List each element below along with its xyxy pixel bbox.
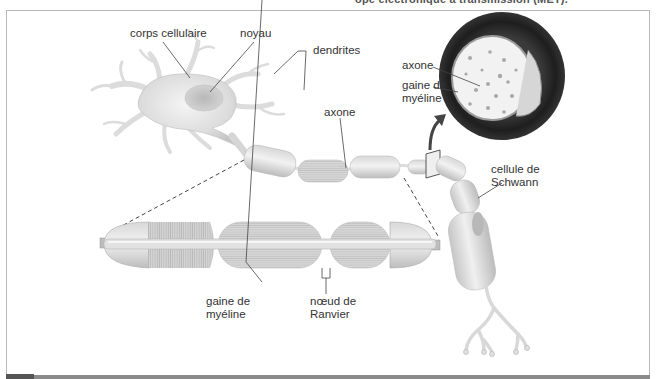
- zoom-arrow: [430, 120, 440, 150]
- label-noeud-ranvier: nœud de Ranvier: [310, 295, 356, 321]
- axon-terminals: [466, 286, 526, 352]
- cross-section-micrograph: [439, 12, 565, 140]
- cell-body-shape: [138, 74, 244, 150]
- label-noyau: noyau: [240, 27, 271, 40]
- label-gaine-myeline-detail: gaine de myéline: [206, 295, 250, 321]
- myelin-segments-main: [242, 143, 469, 184]
- label-dendrites: dendrites: [313, 44, 360, 57]
- schwann-cell-shape: [446, 177, 499, 293]
- label-cellule-schwann: cellule de Schwann: [491, 163, 540, 189]
- label-axone: axone: [324, 106, 355, 119]
- myelin-detail: [100, 222, 440, 268]
- label-axone-cross-section: axone: [402, 59, 433, 72]
- nucleus-shape: [185, 85, 223, 111]
- label-gaine-cross-section: gaine de myéline: [402, 79, 446, 105]
- label-corps-cellulaire: corps cellulaire: [130, 27, 207, 40]
